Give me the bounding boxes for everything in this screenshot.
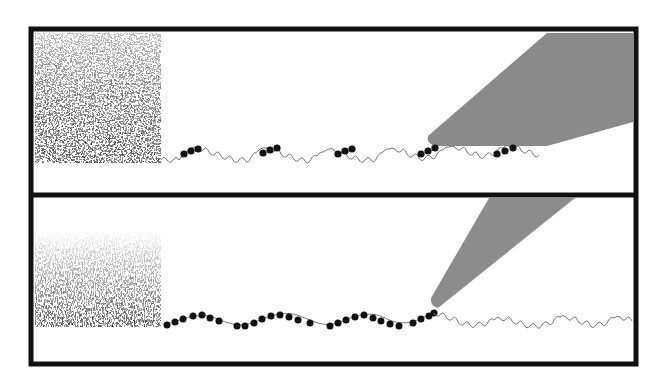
bottom-panel	[35, 198, 632, 330]
bottom-thread	[434, 313, 632, 328]
top-stippled-block	[35, 33, 161, 163]
diagram-canvas	[0, 0, 668, 388]
top-probe-wedge	[428, 33, 633, 146]
top-panel	[35, 33, 633, 163]
bottom-bead-chain	[164, 310, 438, 330]
bottom-stippled-block	[35, 230, 161, 327]
bottom-probe-cone	[431, 198, 575, 308]
